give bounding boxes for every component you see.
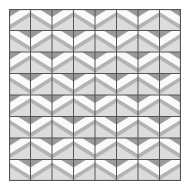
tile-cell — [74, 9, 96, 31]
tile-cell — [138, 9, 160, 31]
tile-cell — [9, 9, 31, 31]
tiling-frame — [9, 9, 181, 181]
tile-cell — [95, 9, 117, 31]
tile-cell — [117, 9, 139, 31]
tile-cell — [52, 9, 74, 31]
tile-grid — [9, 9, 181, 181]
figure-canvas — [0, 0, 189, 190]
tile-cell — [160, 9, 182, 31]
tile-cell — [31, 9, 53, 31]
